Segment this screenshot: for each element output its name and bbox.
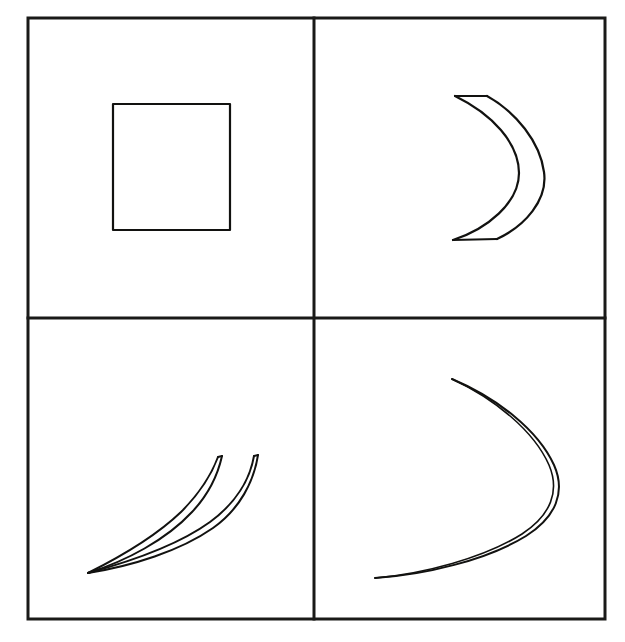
panel-top-right-area[interactable] (316, 19, 604, 317)
panel-top-right[interactable] (316, 19, 604, 317)
panel-top-left-area[interactable] (29, 19, 313, 317)
panel-bottom-left[interactable] (29, 320, 313, 618)
panel-top-left[interactable] (29, 19, 313, 317)
panel-bottom-right[interactable] (316, 320, 604, 618)
four-panel-figure (0, 0, 625, 642)
shape-crescent-cusp-bottom (453, 239, 497, 240)
figure-root: Four-panel shape deformation figure squa… (0, 0, 625, 642)
panel-bottom-right-area[interactable] (316, 320, 604, 618)
shape-compressed-crescent-cusp-b (254, 455, 258, 456)
panel-bottom-left-area[interactable] (29, 320, 313, 618)
shape-compressed-crescent-cusp-a (218, 456, 222, 457)
